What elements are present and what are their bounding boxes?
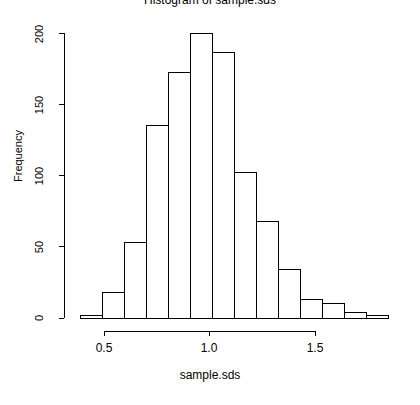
histogram-bar — [256, 221, 278, 318]
histogram-bar — [146, 126, 168, 318]
histogram-bar — [278, 270, 300, 318]
histogram-bar — [168, 73, 190, 318]
histogram-bar — [212, 53, 234, 318]
histogram-bar — [366, 315, 388, 318]
histogram-bar — [124, 242, 146, 318]
plot-canvas — [0, 0, 420, 405]
histogram-bar — [80, 315, 102, 318]
histogram-bar — [234, 173, 256, 318]
histogram-bar — [190, 33, 212, 318]
histogram-plot: Histogram of sample.sds Frequency sample… — [0, 0, 420, 405]
bars-group — [80, 33, 388, 318]
histogram-bar — [102, 292, 124, 318]
histogram-bar — [344, 312, 366, 318]
histogram-bar — [300, 299, 322, 318]
histogram-bar — [322, 304, 344, 318]
